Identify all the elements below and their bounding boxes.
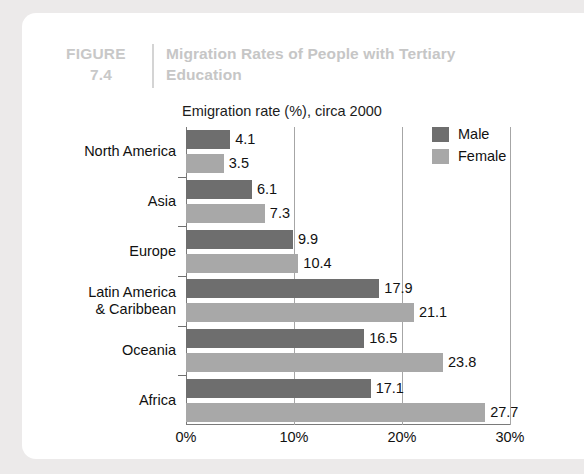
bar-male [186, 379, 371, 398]
bar-female [186, 353, 443, 372]
bar-male [186, 279, 379, 298]
bar-value-label: 27.7 [490, 403, 518, 422]
bar-female [186, 254, 298, 273]
figure-card: FIGURE 7.4 Migration Rates of People wit… [22, 13, 584, 459]
category-label-line: Latin America [26, 284, 176, 301]
category-label: Latin America& Caribbean [26, 284, 176, 318]
plot-area: 4.13.56.17.39.910.417.921.116.523.817.12… [186, 127, 510, 425]
bar-value-label: 17.9 [384, 279, 412, 298]
category-label: North America [26, 143, 176, 160]
figure-title-line2: Education [166, 66, 242, 83]
bar-value-label: 16.5 [369, 329, 397, 348]
bar-male [186, 130, 230, 149]
header-divider [152, 44, 154, 88]
category-label-line: Europe [26, 243, 176, 260]
bar-male [186, 230, 293, 249]
chart-subtitle: Emigration rate (%), circa 2000 [182, 103, 382, 119]
x-tick-label: 30% [495, 429, 524, 445]
x-tick-label: 0% [176, 429, 197, 445]
figure-title: Migration Rates of People with Tertiary … [166, 43, 456, 85]
bar-value-label: 17.1 [376, 379, 404, 398]
group-tick [178, 276, 186, 277]
category-label: Africa [26, 392, 176, 409]
category-label-line: & Caribbean [26, 301, 176, 318]
figure-number-value: 7.4 [66, 64, 150, 85]
bar-male [186, 329, 364, 348]
x-tick-label: 10% [279, 429, 308, 445]
bar-value-label: 23.8 [448, 353, 476, 372]
group-tick [178, 326, 186, 327]
bar-female [186, 303, 414, 322]
category-label-line: Oceania [26, 342, 176, 359]
group-tick [178, 177, 186, 178]
x-tick-label: 20% [387, 429, 416, 445]
category-label: Oceania [26, 342, 176, 359]
x-axis-line [186, 424, 510, 425]
category-label: Europe [26, 243, 176, 260]
bar-value-label: 7.3 [270, 204, 290, 223]
bar-chart: Emigration rate (%), circa 2000 Male Fem… [22, 99, 584, 459]
bar-value-label: 3.5 [229, 154, 249, 173]
figure-number-label: FIGURE [66, 45, 126, 62]
bar-value-label: 9.9 [298, 230, 318, 249]
category-label-line: Asia [26, 193, 176, 210]
bar-value-label: 6.1 [257, 180, 277, 199]
bar-value-label: 21.1 [419, 303, 447, 322]
category-label: Asia [26, 193, 176, 210]
bar-female [186, 154, 224, 173]
figure-header: FIGURE 7.4 Migration Rates of People wit… [66, 43, 536, 88]
category-label-line: Africa [26, 392, 176, 409]
bar-female [186, 403, 485, 422]
bar-female [186, 204, 265, 223]
figure-title-line1: Migration Rates of People with Tertiary [166, 45, 456, 62]
group-tick [178, 226, 186, 227]
group-tick [178, 375, 186, 376]
gridline-30 [510, 127, 511, 425]
bar-value-label: 10.4 [303, 254, 331, 273]
figure-number-block: FIGURE 7.4 [66, 43, 150, 85]
bar-value-label: 4.1 [235, 130, 255, 149]
category-label-line: North America [26, 143, 176, 160]
bar-male [186, 180, 252, 199]
